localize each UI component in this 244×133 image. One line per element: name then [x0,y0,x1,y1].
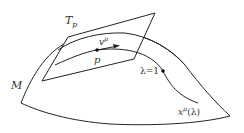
label-curve: xμ(λ) [178,106,200,117]
point-lambda-1 [161,69,165,73]
vector-superscript: μ [104,35,108,42]
label-point-p: p [94,55,100,65]
point-symbol: p [94,54,100,65]
tangent-plane-subscript: p [72,20,77,29]
label-lambda-1: λ=1 [140,67,159,76]
tangent-space-diagram: Tp M vμ p λ=1 xμ(λ) [0,0,244,133]
curve-argument: (λ) [187,107,200,117]
lambda-1-text: λ=1 [140,66,159,76]
label-manifold: M [11,80,22,91]
label-vector: vμ [99,36,108,47]
label-tangent-plane: Tp [65,15,77,29]
point-p [95,48,99,52]
diagram-svg [0,0,244,133]
manifold-symbol: M [11,79,22,92]
